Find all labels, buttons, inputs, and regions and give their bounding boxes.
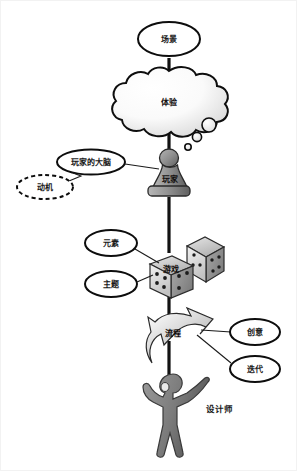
front-die-pip [162,285,166,289]
front-die-pip [177,286,181,290]
designer-label: 设计师 [206,404,233,414]
node-theme[interactable]: 主题 [85,271,153,297]
game-label: 游戏 [163,264,179,274]
node-motivation[interactable]: 动机 [17,173,81,199]
connector-iteration-to-process [197,335,231,363]
player-pawn-base [148,186,190,196]
diagram-svg: 场景 体验 玩家 玩家的大脑 动机 [1,1,297,471]
process-label: 流程 [165,328,181,338]
designer-face-highlight [161,383,169,392]
node-scene[interactable]: 场景 [138,22,200,56]
theme-label: 主题 [103,279,120,289]
thought-bubble-large [202,118,216,132]
game-die-front: 游戏 [150,256,193,298]
motivation-label: 动机 [37,182,53,192]
connector-player-brain-to-player [125,164,159,169]
rear-die-pip [217,255,220,258]
node-player[interactable]: 玩家 [148,149,190,196]
rear-die-pip [198,263,201,266]
node-designer[interactable]: 设计师 [143,374,233,457]
node-elements[interactable]: 元素 [85,230,159,263]
thought-bubble-medium [192,132,201,141]
iteration-label: 迭代 [247,364,263,374]
rear-die-pip [211,269,214,272]
elements-label: 元素 [103,238,119,248]
thought-bubble-small [185,144,191,150]
rear-die-pip [210,258,213,261]
designer-figure-shape [143,374,209,457]
node-process[interactable]: 流程 [146,308,213,363]
front-die-pip [185,271,189,275]
front-die-pip [155,272,159,276]
node-player-brain[interactable]: 玩家的大脑 [57,150,159,175]
connector-creativity-to-process [201,330,231,332]
connector-elements-to-game [135,249,159,263]
node-game[interactable]: 游戏 [150,237,224,298]
node-creativity[interactable]: 创意 [201,319,280,345]
front-die-pip [155,281,159,285]
rear-die-pip [192,253,195,256]
front-die-pip [163,276,167,280]
scene-label: 场景 [161,34,177,44]
front-die-pip [177,274,181,278]
rear-die-pip [217,265,220,268]
creativity-label: 创意 [246,327,263,337]
experience-label: 体验 [161,97,178,107]
player-label: 玩家 [162,174,179,184]
player-brain-label: 玩家的大脑 [71,157,111,167]
diagram-canvas: 场景 体验 玩家 玩家的大脑 动机 [0,0,297,471]
